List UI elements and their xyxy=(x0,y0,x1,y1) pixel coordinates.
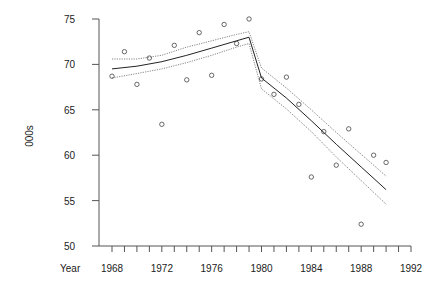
data-point xyxy=(334,163,338,167)
fitted-line xyxy=(112,37,386,190)
y-tick-label: 55 xyxy=(64,196,76,207)
y-axis-label: 000s xyxy=(24,125,35,147)
data-point xyxy=(185,78,189,82)
data-point xyxy=(359,222,363,226)
x-tick-label: 1976 xyxy=(201,263,224,274)
data-point xyxy=(160,122,164,126)
data-point xyxy=(197,30,201,34)
y-tick-label: 60 xyxy=(64,150,76,161)
y-tick-label: 65 xyxy=(64,105,76,116)
data-point xyxy=(135,82,139,86)
data-point xyxy=(371,153,375,157)
x-axis-label: Year xyxy=(60,263,81,274)
data-point xyxy=(247,17,251,21)
plot-area xyxy=(110,17,388,227)
x-tick-label: 1984 xyxy=(300,263,323,274)
time-series-chart: 505560657075 196819721976198019841988199… xyxy=(0,0,442,293)
x-tick-label: 1980 xyxy=(250,263,273,274)
y-tick-label: 75 xyxy=(64,14,76,25)
data-point xyxy=(272,92,276,96)
y-axis: 505560657075 xyxy=(64,14,99,252)
data-point xyxy=(172,43,176,47)
x-tick-label: 1968 xyxy=(101,263,124,274)
x-axis: 1968197219761980198419881992 xyxy=(99,246,423,274)
data-point xyxy=(384,160,388,164)
x-tick-label: 1972 xyxy=(151,263,174,274)
data-point xyxy=(209,73,213,77)
data-point xyxy=(234,41,238,45)
data-point xyxy=(222,22,226,26)
data-point xyxy=(347,127,351,131)
confidence-band-line xyxy=(112,32,386,176)
data-point xyxy=(147,56,151,60)
x-tick-label: 1988 xyxy=(350,263,373,274)
y-tick-label: 50 xyxy=(64,241,76,252)
x-tick-label: 1992 xyxy=(400,263,423,274)
confidence-band-line xyxy=(112,44,386,205)
data-point xyxy=(122,49,126,53)
data-point xyxy=(284,75,288,79)
y-tick-label: 70 xyxy=(64,59,76,70)
data-point xyxy=(297,102,301,106)
data-point xyxy=(309,175,313,179)
